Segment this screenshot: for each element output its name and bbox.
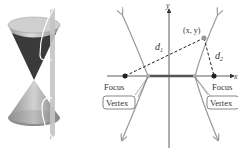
- point-xy: [202, 36, 206, 40]
- d2-label: d2: [215, 50, 223, 62]
- left-focus-label: Focus: [104, 82, 124, 92]
- d1-label: d1: [155, 41, 163, 53]
- hyperbola-diagram: y x (x, y) d1 d2 Focus Focus Vertex Vert…: [103, 1, 238, 148]
- x-axis-label: x: [233, 72, 238, 81]
- hyperbola-figure: y x (x, y) d1 d2 Focus Focus Vertex Vert…: [0, 0, 238, 152]
- right-focus-label: Focus: [212, 82, 232, 92]
- d1-line: [125, 38, 204, 76]
- d2-line: [204, 38, 214, 76]
- y-axis-label: y: [165, 1, 170, 10]
- double-cone: [8, 8, 60, 140]
- point-label: (x, y): [183, 26, 201, 35]
- right-focus-point: [212, 74, 217, 79]
- left-vertex-label: Vertex: [106, 98, 129, 108]
- right-vertex-label: Vertex: [210, 98, 233, 108]
- left-focus-point: [123, 74, 128, 79]
